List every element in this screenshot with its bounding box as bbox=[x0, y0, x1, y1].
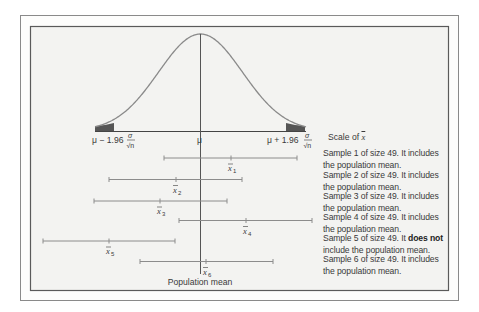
legend-text: Sample 5 of size 49. It bbox=[323, 233, 408, 243]
legend-sample-4: Sample 4 of size 49. It includes the pop… bbox=[323, 212, 439, 235]
legend-emphasis: does not bbox=[408, 233, 443, 243]
legend-line: Sample 3 of size 49. It includes bbox=[323, 191, 439, 203]
xbar-symbol: x bbox=[361, 132, 365, 142]
legend-line: Sample 4 of size 49. It includes bbox=[323, 212, 439, 224]
legend-line: the population mean. bbox=[323, 266, 439, 278]
legend-line: Sample 5 of size 49. It does not bbox=[323, 233, 443, 245]
xbar-label: x bbox=[105, 246, 110, 256]
xbar-label: x bbox=[227, 163, 232, 173]
legend-line: Sample 2 of size 49. It includes bbox=[323, 170, 439, 182]
lower-sqrt-n: √n bbox=[127, 142, 135, 149]
mu-label: μ bbox=[197, 135, 202, 145]
scale-label-text: Scale of bbox=[328, 132, 361, 142]
population-mean-label: Population mean bbox=[168, 277, 233, 287]
xbar-label: x bbox=[202, 267, 207, 277]
legend-sample-1: Sample 1 of size 49. It includes the pop… bbox=[323, 148, 439, 171]
legend-sample-5: Sample 5 of size 49. It does not include… bbox=[323, 233, 443, 256]
scale-label: Scale of x bbox=[328, 132, 365, 142]
legend-sample-6: Sample 6 of size 49. It includes the pop… bbox=[323, 254, 439, 277]
legend-sample-3: Sample 3 of size 49. It includes the pop… bbox=[323, 191, 439, 214]
lower-bound-label: μ − 1.96 bbox=[92, 135, 124, 145]
upper-sqrt-n: √n bbox=[304, 142, 312, 149]
upper-bound-label: μ + 1.96 bbox=[267, 135, 299, 145]
legend-line: Sample 1 of size 49. It includes bbox=[323, 148, 439, 160]
legend-line: Sample 6 of size 49. It includes bbox=[323, 254, 439, 266]
xbar-label: x bbox=[242, 226, 247, 236]
xbar-label: x bbox=[156, 206, 161, 216]
xbar-label: x bbox=[172, 185, 177, 195]
legend-sample-2: Sample 2 of size 49. It includes the pop… bbox=[323, 170, 439, 193]
